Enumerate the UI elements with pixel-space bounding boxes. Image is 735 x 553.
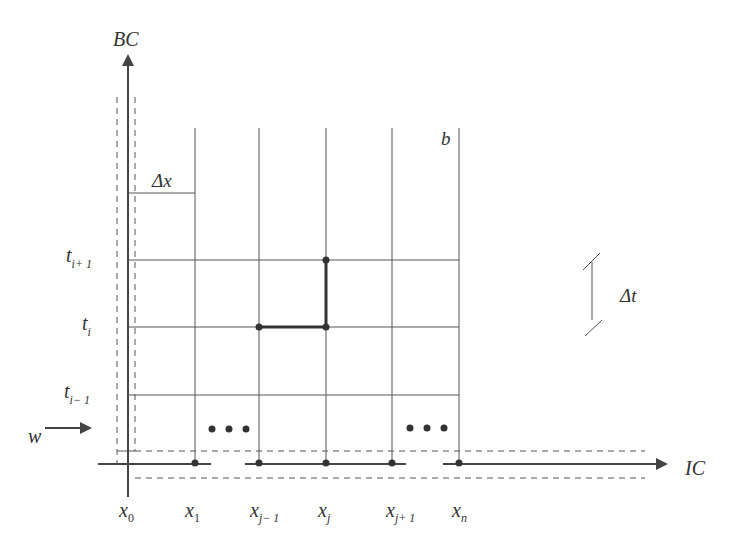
x-label-j-plus-1: xj+ 1 [385, 499, 415, 525]
x-label-n: xn [451, 499, 467, 525]
x-label-0: x0 [118, 499, 134, 525]
delta-t-label: Δt [619, 285, 637, 306]
bc-axis-label: BC [113, 28, 139, 50]
x-label-j-minus-1: xj− 1 [249, 499, 279, 525]
t-label-i-plus-1: ti+ 1 [66, 244, 92, 271]
ellipsis-right [407, 425, 448, 432]
x-label-j: xj [317, 499, 331, 525]
boundary-b-label: b [441, 128, 451, 149]
inflow-w-label: w [28, 425, 42, 447]
stencil [256, 257, 330, 331]
horizontal-grid-lines [128, 193, 459, 395]
t-label-i-minus-1: ti− 1 [64, 380, 90, 407]
finite-difference-grid-diagram: BC IC Δx Δt b w ti+ 1 ti ti− 1 x0 x1 xj−… [0, 0, 735, 553]
delta-x-label: Δx [151, 170, 172, 191]
ic-axis-label: IC [684, 457, 706, 479]
axis-nodes [192, 460, 463, 467]
t-label-i: ti [82, 312, 91, 339]
ellipsis-left [209, 426, 250, 433]
boundary-condition-strip [117, 97, 135, 464]
x-label-1: x1 [184, 499, 200, 525]
delta-t-marker [583, 253, 602, 336]
